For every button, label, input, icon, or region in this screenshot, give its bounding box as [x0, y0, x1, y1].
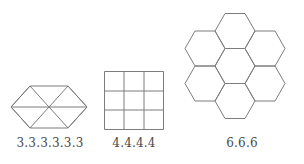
- triangle-diagonal-2: [30, 86, 49, 107]
- triangle-tessellation-drawing: [11, 86, 87, 128]
- triangle-diagonal-7: [49, 107, 68, 128]
- hexagon-center: [215, 49, 255, 84]
- figure-hexagon-tessellation: [182, 4, 288, 128]
- triangle-diagonal-6: [30, 107, 49, 128]
- square-tessellation-drawing: [104, 71, 164, 130]
- label-triangle-tessellation: 3.3.3.3.3.3: [0, 136, 100, 150]
- hexagon-upper-right: [245, 31, 285, 66]
- label-square-tessellation: 4.4.4.4: [102, 136, 166, 150]
- hexagon-top: [215, 14, 255, 49]
- triangle-diagonal-3: [49, 86, 68, 107]
- hexagon-tessellation-drawing: [182, 4, 288, 128]
- tessellation-figure-panel: 3.3.3.3.3.3 4.4.4.4 6.6.6: [0, 0, 304, 164]
- hexagon-upper-left: [185, 31, 225, 66]
- figure-square-tessellation: [104, 71, 164, 130]
- triangle-diagonal-5: [11, 107, 30, 128]
- square-outline-rect: [105, 72, 164, 130]
- label-hexagon-tessellation: 6.6.6: [208, 136, 276, 150]
- hexagon-lower-right: [245, 66, 285, 101]
- hexagon-lower-left: [185, 66, 225, 101]
- figure-triangle-tessellation: [11, 86, 87, 128]
- hexagon-bottom: [215, 84, 255, 119]
- triangle-diagonal-8: [68, 107, 87, 128]
- triangle-diagonal-1: [11, 86, 30, 107]
- triangle-diagonal-4: [68, 86, 87, 107]
